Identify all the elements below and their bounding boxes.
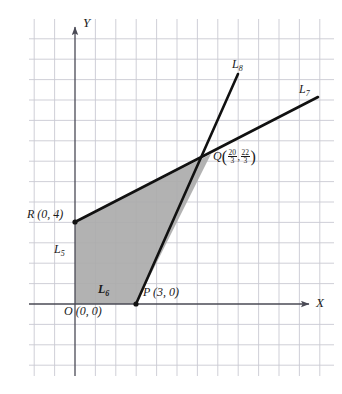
point-label-R: R (0, 4)	[27, 208, 63, 220]
q-y-fraction: 223	[241, 149, 251, 166]
point-label-O: O (0, 0)	[64, 305, 102, 317]
line-label-L5: L5	[54, 243, 65, 258]
y-axis-label: Y	[83, 16, 90, 29]
line-label-L6-sub: 6	[105, 289, 109, 298]
q-x-fraction: 203	[228, 149, 238, 166]
line-label-L7-base: L	[299, 82, 306, 96]
point-label-P: P (3, 0)	[143, 286, 179, 298]
x-axis-label: X	[316, 296, 324, 309]
line-label-L7-sub: 7	[306, 89, 310, 98]
line-label-L8-sub: 8	[239, 64, 243, 73]
coordinate-plane-figure: Y X O (0, 0) R (0, 4) P (3, 0) Q(203,223…	[0, 0, 342, 394]
line-label-L7: L7	[299, 83, 310, 98]
line-label-L5-sub: 5	[61, 249, 65, 258]
line-label-L8: L8	[232, 58, 243, 73]
line-label-L6: L6	[98, 283, 109, 298]
q-y-denominator: 3	[241, 157, 251, 165]
line-label-L5-base: L	[54, 242, 61, 256]
line-L7	[75, 97, 318, 222]
point-R-dot	[72, 219, 77, 224]
q-x-denominator: 3	[228, 157, 238, 165]
q-open-paren: (	[222, 148, 227, 165]
q-close-paren: )	[251, 148, 256, 165]
point-label-Q: Q(203,223)	[213, 149, 256, 166]
plot-canvas	[0, 0, 342, 394]
line-label-L8-base: L	[232, 57, 239, 71]
point-P-dot	[133, 301, 138, 306]
point-label-Q-symbol: Q	[213, 149, 222, 163]
